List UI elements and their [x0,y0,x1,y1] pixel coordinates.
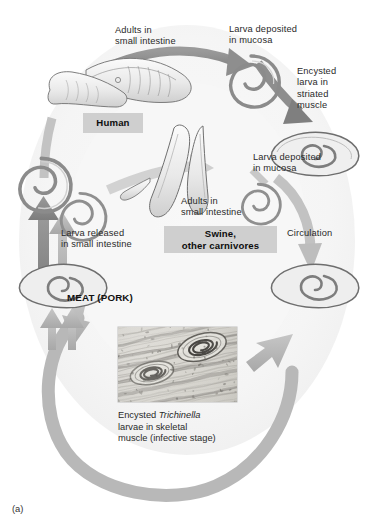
label-encysted-larva-in-striated-muscle: Encysted larva in striated muscle [297,66,336,112]
caption-species-name: Trichinella [159,410,201,420]
micrograph-caption: Encysted Trichinella larvae in skeletal … [118,410,258,445]
label-circulation: Circulation [287,228,332,239]
micrograph-encysted-trichinella [118,327,237,402]
caption-line3: muscle (infective stage) [118,433,258,445]
chip-human: Human [83,113,143,133]
label-larva-deposited-in-mucosa-top: Larva deposited in mucosa [229,24,297,47]
label-larva-deposited-in-mucosa-right: Larva deposited in mucosa [253,152,321,175]
label-adults-in-small-intestine-swine: Adults in small intestine [181,196,242,219]
caption-line2: larvae in skeletal [118,422,258,434]
caption-line1-pre: Encysted [118,410,159,420]
encysted-larva-in-cyst-icon [271,264,358,307]
label-meat-pork: MEAT (PORK) [67,292,133,303]
chip-swine-text: Swine, other carnivores [182,228,260,251]
trichinella-life-cycle-figure: Adults in small intestine Larva deposite… [0,0,374,529]
chip-swine-other-carnivores: Swine, other carnivores [164,226,277,253]
label-larva-released-in-small-intestine: Larva released in small intestine [61,228,132,251]
chip-human-text: Human [96,117,129,129]
label-adults-in-small-intestine-human: Adults in small intestine [115,25,176,48]
micrograph-image [118,327,237,402]
panel-label-a: (a) [12,503,23,514]
